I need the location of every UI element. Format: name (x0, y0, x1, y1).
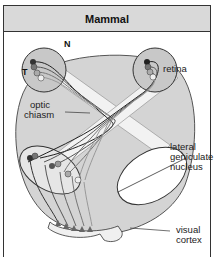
label-nasal: N (64, 39, 71, 49)
label-retina: retina (163, 63, 187, 74)
leader-visual-cortex (130, 228, 170, 231)
label-visual-cortex-2: cortex (176, 234, 202, 245)
left-eye (22, 48, 66, 92)
label-temporal: T (22, 67, 28, 77)
label-optic-chiasm-2: chiasm (24, 109, 54, 120)
label-lgn-3: nucleus (170, 161, 203, 172)
